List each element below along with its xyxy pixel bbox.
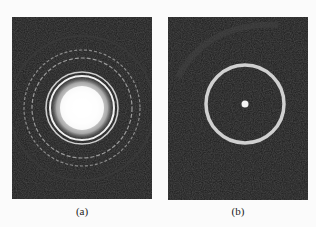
caption-a: (a) [62, 205, 102, 217]
caption-b: (b) [218, 205, 258, 217]
diffraction-image-a [12, 17, 152, 199]
diffraction-image-b [168, 17, 308, 200]
